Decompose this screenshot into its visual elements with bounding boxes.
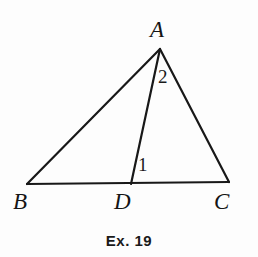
segment-AC [160,49,229,182]
triangle-diagram [0,0,258,257]
vertex-label-d: D [114,190,131,213]
vertex-label-b: B [13,190,27,213]
vertex-label-a: A [150,18,164,41]
angle-label-2: 2 [158,67,168,86]
segment-BC [27,182,229,184]
vertex-label-c: C [214,190,229,213]
figure-caption: Ex. 19 [0,232,258,249]
angle-label-1: 1 [138,155,148,174]
figure-canvas: A B C D 1 2 Ex. 19 [0,0,258,257]
